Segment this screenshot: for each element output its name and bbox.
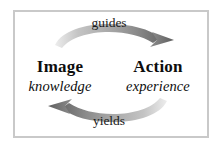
edge-label-guides: guides xyxy=(59,15,159,31)
node-action-title: Action xyxy=(112,58,204,75)
node-action: Action experience xyxy=(112,58,204,94)
node-image-subtitle: knowledge xyxy=(14,79,106,94)
node-action-subtitle: experience xyxy=(112,79,204,94)
edge-label-yields: yields xyxy=(59,113,159,129)
node-image: Image knowledge xyxy=(14,58,106,94)
node-image-title: Image xyxy=(14,58,106,75)
cycle-diagram-figure: Image knowledge Action experience guides… xyxy=(0,0,218,146)
